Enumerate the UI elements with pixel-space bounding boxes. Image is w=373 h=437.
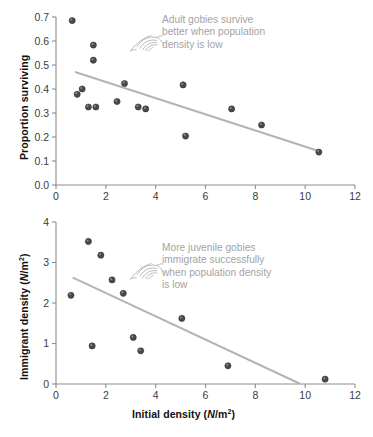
data-point [90,42,96,48]
data-point [229,106,235,112]
y-tick-label: 0.7 [34,11,49,23]
data-point [143,106,149,112]
x-tick-label: 4 [153,190,159,202]
data-point [138,348,144,354]
y-tick-label: 0 [43,378,49,390]
data-point-highlight [131,335,133,337]
data-point [90,57,96,63]
x-axis-title-close: ) [231,408,235,420]
y-tick-label: 3 [43,256,49,268]
pointing-hand-icon [128,254,166,282]
data-point-highlight [99,253,101,255]
data-point-highlight [94,105,96,107]
data-point [180,82,186,88]
y-tick-label: 2 [43,297,49,309]
data-point [109,277,115,283]
data-point-highlight [70,19,72,21]
data-point [225,363,231,369]
data-point [182,133,188,139]
data-point-highlight [180,316,182,318]
y-tick-label: 1 [43,337,49,349]
x-tick-label: 8 [252,389,258,401]
data-point [130,334,136,340]
y-tick-label: 0.6 [34,35,49,47]
x-axis-title-text1: Initial density ( [132,408,207,420]
data-point-highlight [323,377,325,379]
x-tick-label: 2 [103,389,109,401]
data-point [79,86,85,92]
data-point-highlight [69,293,71,295]
annotation-bottom: More juvenile gobies immigrate successfu… [162,242,271,292]
data-point [179,315,185,321]
data-point-highlight [226,364,228,366]
data-point-highlight [91,58,93,60]
data-point [98,252,104,258]
panel-proportion-surviving: 0.00.10.20.30.40.50.60.7024681012 Propor… [0,0,373,212]
y-axis-title-top-text: Proportion surviving [18,55,30,160]
y-axis-title-bottom-close: ) [18,253,30,257]
panel-immigrant-density: 01234024681012 Immigrant density (N/m2) … [0,212,373,437]
y-axis-title-top: Proportion surviving [18,55,30,160]
y-tick-label: 4 [43,216,49,228]
data-point [322,376,328,382]
data-point-highlight [317,150,319,152]
y-tick-label: 0.3 [34,107,49,119]
y-axis-title-bottom-exp: 2 [18,257,25,261]
x-tick-label: 10 [299,389,311,401]
data-point-highlight [121,291,123,293]
data-point [69,18,75,24]
x-tick-label: 12 [349,389,361,401]
gobies-density-figure: 0.00.10.20.30.40.50.60.7024681012 Propor… [0,0,373,437]
data-point-highlight [230,107,232,109]
data-point [85,104,91,110]
data-point [93,104,99,110]
x-tick-label: 6 [203,389,209,401]
data-point-highlight [115,99,117,101]
data-point-highlight [136,105,138,107]
x-tick-label: 8 [252,190,258,202]
data-point-highlight [123,81,125,83]
x-axis-title-italic: N [207,408,215,420]
x-tick-label: 10 [299,190,311,202]
data-point [114,98,120,104]
y-axis-title-bottom-text1: Immigrant density ( [18,281,30,380]
data-point-highlight [80,87,82,89]
data-point-highlight [181,83,183,85]
data-point [316,149,322,155]
data-point [121,80,127,86]
y-tick-label: 0.2 [34,131,49,143]
data-point-highlight [110,278,112,280]
data-point [74,91,80,97]
x-axis-title: Initial density (N/m2) [132,408,235,420]
data-point [89,343,95,349]
x-tick-label: 4 [153,389,159,401]
data-point-highlight [75,92,77,94]
x-tick-label: 0 [53,389,59,401]
y-tick-label: 0.4 [34,83,49,95]
data-point-highlight [90,344,92,346]
data-point [85,238,91,244]
x-tick-label: 6 [203,190,209,202]
data-point [258,122,264,128]
x-tick-label: 0 [53,190,59,202]
data-point-highlight [86,105,88,107]
data-point [135,104,141,110]
y-tick-label: 0.1 [34,155,49,167]
data-point [120,290,126,296]
annotation-top: Adult gobies survive better when populat… [162,14,265,51]
data-point-highlight [184,134,186,136]
data-point [68,292,74,298]
y-tick-label: 0.5 [34,59,49,71]
data-point-highlight [144,107,146,109]
trend-line [73,278,298,383]
y-tick-label: 0.0 [34,179,49,191]
x-tick-label: 2 [103,190,109,202]
data-point-highlight [260,123,262,125]
x-axis-title-unit: /m [215,408,227,420]
trend-line [76,72,320,151]
data-point-highlight [86,239,88,241]
data-point-highlight [139,349,141,351]
x-tick-label: 12 [349,190,361,202]
y-axis-title-bottom: Immigrant density (N/m2) [18,253,30,380]
pointing-hand-icon [128,26,166,54]
